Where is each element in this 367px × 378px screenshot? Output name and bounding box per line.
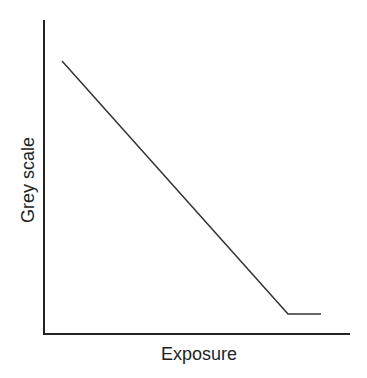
data-line [62, 61, 321, 314]
x-axis-label: Exposure [161, 344, 237, 364]
y-axis-label: Grey scale [18, 137, 38, 223]
chart: Exposure Grey scale [0, 0, 367, 378]
